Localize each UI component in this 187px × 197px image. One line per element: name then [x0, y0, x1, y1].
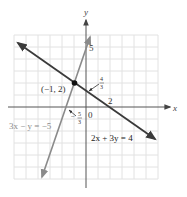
y-intercept-5-label: 5 — [89, 43, 94, 53]
y-axis-label: y — [83, 7, 88, 17]
intersection-point — [72, 80, 78, 86]
x-intercept-2-label: 2 — [108, 96, 113, 106]
intersection-label: (−1, 2) — [41, 84, 66, 94]
x-axis-label: x — [172, 103, 177, 113]
equation-line2-label: 3x − y = −5 — [9, 121, 52, 131]
x-intercept-neg-sign: − — [71, 113, 75, 121]
graph-canvas: y x 5 4 3 2 0 − 5 3 (−1, 2) 3x − y = −5 … — [0, 0, 187, 197]
x-intercept-5-3-denominator: 3 — [78, 119, 81, 125]
origin-label: 0 — [88, 110, 93, 120]
y-intercept-4-3-denominator: 3 — [100, 84, 103, 90]
y-intercept-4-3-numerator: 4 — [100, 76, 103, 82]
equation-line1-label: 2x + 3y = 4 — [91, 133, 133, 143]
x-intercept-5-3-numerator: 5 — [78, 111, 81, 117]
